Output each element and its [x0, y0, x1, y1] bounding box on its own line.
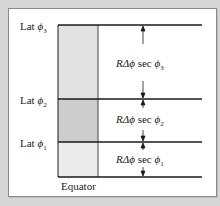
lat-label-1: Lat ϕ1: [20, 137, 47, 154]
spacing-label-1: RΔϕ sec ϕ1: [116, 153, 164, 170]
cell-top: [58, 25, 98, 99]
cell-bottom: [58, 142, 98, 177]
equator-label: Equator: [61, 180, 96, 192]
cell-middle: [58, 99, 98, 142]
lat-label-2: Lat ϕ2: [20, 94, 47, 111]
spacing-label-3: RΔϕ sec ϕ3: [116, 57, 164, 74]
lat-label-3: Lat ϕ3: [20, 20, 47, 37]
spacing-label-2: RΔϕ sec ϕ2: [116, 113, 164, 130]
